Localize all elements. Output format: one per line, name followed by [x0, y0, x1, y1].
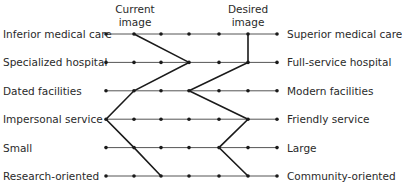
- scale-point: [275, 117, 279, 121]
- scale-point: [217, 117, 221, 121]
- scale-point: [275, 174, 279, 178]
- scale-point: [159, 89, 163, 93]
- scale-point: [217, 61, 221, 65]
- scale-point: [187, 117, 191, 121]
- desired-image-profile-line: [189, 34, 248, 176]
- scale-point: [104, 89, 108, 93]
- scale-point: [187, 146, 191, 150]
- scale-point: [104, 61, 108, 65]
- scale-point: [217, 174, 221, 178]
- scale-point: [159, 61, 163, 65]
- scale-point: [104, 32, 108, 36]
- scale-point: [275, 32, 279, 36]
- scale-point: [187, 174, 191, 178]
- scale-point: [132, 61, 136, 65]
- scale-point: [104, 146, 108, 150]
- scale-point: [159, 117, 163, 121]
- scale-point: [132, 117, 136, 121]
- scale-point: [246, 146, 250, 150]
- scale-point: [275, 61, 279, 65]
- scale-point: [132, 174, 136, 178]
- current-image-profile-line: [106, 34, 189, 176]
- scale-point: [159, 146, 163, 150]
- scale-point: [275, 89, 279, 93]
- scale-point: [217, 32, 221, 36]
- scale-point: [159, 32, 163, 36]
- scale-point: [104, 174, 108, 178]
- scale-point: [187, 32, 191, 36]
- scale-point: [275, 146, 279, 150]
- scale-point: [246, 89, 250, 93]
- scale-point: [217, 89, 221, 93]
